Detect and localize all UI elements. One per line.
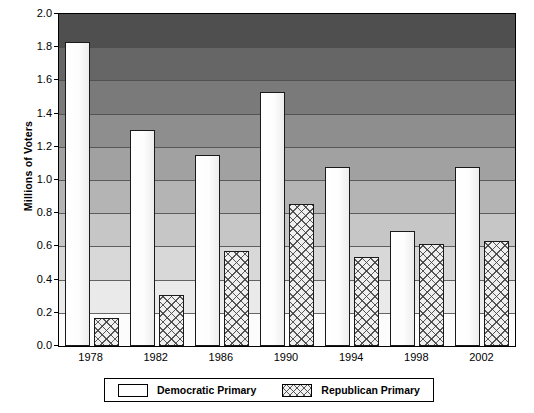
x-tick-label: 1994 (316, 351, 386, 363)
gridline (59, 246, 515, 247)
y-tick-label: 2.0 (14, 7, 52, 19)
plot-area (58, 13, 516, 347)
legend-swatch-democratic-icon (118, 384, 148, 397)
bar-republican (484, 241, 509, 346)
background-band (59, 213, 515, 246)
y-tick-label: 1.6 (14, 73, 52, 85)
background-band (59, 313, 515, 346)
x-tick-label: 2002 (446, 351, 516, 363)
gridline (59, 80, 515, 81)
x-tick-label: 1986 (186, 351, 256, 363)
background-band (59, 114, 515, 147)
background-band (59, 280, 515, 313)
bar-democratic (260, 92, 285, 346)
legend-swatch-republican-icon (282, 384, 312, 397)
y-tick-label: 0.6 (14, 239, 52, 251)
y-tick-label: 0.8 (14, 206, 52, 218)
y-tick-label: 1.0 (14, 173, 52, 185)
background-band (59, 246, 515, 279)
bar-republican (419, 244, 444, 346)
background-band (59, 14, 515, 47)
bar-republican (94, 318, 119, 346)
bar-republican (289, 204, 314, 346)
bar-democratic (455, 167, 480, 346)
legend-entry-democratic: Democratic Primary (118, 384, 256, 397)
x-tick-label: 1978 (56, 351, 126, 363)
bar-chart: Millions of Voters 2.01.81.61.41.21.00.8… (0, 0, 534, 413)
legend-entry-republican: Republican Primary (282, 384, 420, 397)
bar-republican (354, 257, 379, 346)
bar-republican (224, 251, 249, 346)
gridline (59, 47, 515, 48)
x-tick-label: 1990 (251, 351, 321, 363)
y-tick-label: 0.4 (14, 273, 52, 285)
gridline (59, 180, 515, 181)
y-tick-label: 1.8 (14, 40, 52, 52)
y-tick-label: 1.4 (14, 107, 52, 119)
bar-democratic (195, 155, 220, 346)
bar-democratic (130, 130, 155, 346)
legend-label-democratic: Democratic Primary (157, 384, 256, 396)
x-tick-label: 1998 (381, 351, 451, 363)
y-tick-label: 0.2 (14, 306, 52, 318)
gridline (59, 213, 515, 214)
bar-democratic (390, 231, 415, 346)
x-axis-tick-labels: 1978198219861990199419982002 (58, 351, 514, 371)
y-axis-tick-labels: 2.01.81.61.41.21.00.80.60.40.20.0 (14, 0, 52, 413)
background-band (59, 180, 515, 213)
gridline (59, 147, 515, 148)
x-tick-label: 1982 (121, 351, 191, 363)
y-tick-label: 1.2 (14, 140, 52, 152)
bar-democratic (325, 167, 350, 346)
legend-label-republican: Republican Primary (321, 384, 420, 396)
bar-democratic (65, 42, 90, 346)
gridline (59, 280, 515, 281)
gridline (59, 313, 515, 314)
background-band (59, 147, 515, 180)
gridline (59, 114, 515, 115)
bar-republican (159, 295, 184, 346)
chart-legend: Democratic Primary Republican Primary (104, 378, 434, 402)
background-band (59, 47, 515, 80)
background-band (59, 80, 515, 113)
y-tick-label: 0.0 (14, 339, 52, 351)
